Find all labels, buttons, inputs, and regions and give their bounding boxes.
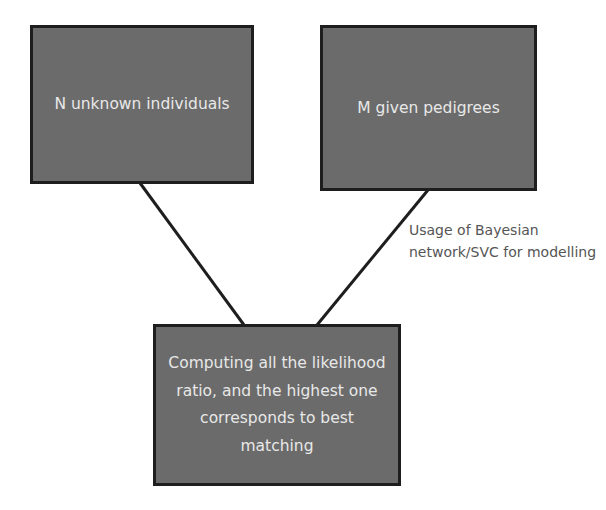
node-label: Computing all the likelihood ratio, and … — [166, 350, 388, 460]
node-n-unknown-individuals: N unknown individuals — [30, 25, 254, 184]
edge-annotation: Usage of Bayesian network/SVC for modell… — [409, 219, 599, 263]
node-label: M given pedigrees — [357, 94, 499, 123]
edge-n-to-c — [140, 183, 244, 325]
node-computing-likelihood: Computing all the likelihood ratio, and … — [153, 324, 401, 486]
node-m-given-pedigrees: M given pedigrees — [320, 25, 537, 191]
node-label: N unknown individuals — [54, 90, 229, 119]
